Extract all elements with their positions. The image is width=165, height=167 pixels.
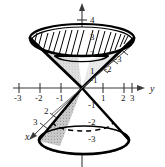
z-tick-label-3: 3 (90, 32, 95, 42)
y-tick-label-m3: -3 (14, 93, 22, 103)
cone-figure: 4 3 2 1 -1 -2 -3 -3 -2 -1 1 2 3 y 2 3 x … (0, 0, 165, 167)
y-tick-label-3: 3 (130, 93, 135, 103)
y-tick-label-1: 1 (101, 93, 106, 103)
x-axis-label: x (24, 131, 30, 142)
y-tick-label-m1: -1 (56, 93, 64, 103)
y-tick-label-m2: -2 (35, 93, 43, 103)
z-tick-label-m1: -1 (88, 100, 96, 110)
z-tick-label-m3: -3 (88, 134, 96, 144)
x-tick-label-3: 3 (33, 117, 38, 127)
z-tick-label-2: 2 (90, 49, 95, 59)
z-tick-label-m2: -2 (88, 117, 96, 127)
z-tick-label-4: 4 (90, 15, 95, 25)
lower-cone-body-shade (39, 88, 129, 155)
y-axis-label: y (149, 83, 155, 94)
y-tick-label-2: 2 (121, 93, 126, 103)
y-axis-arrowhead (137, 85, 145, 91)
x-tick-label-m2: -2 (104, 64, 112, 74)
z-axis-arrowhead (79, 3, 85, 11)
x-tick-label-m3: -3 (114, 54, 122, 64)
x-tick-label-m1: -1 (90, 75, 98, 85)
x-tick-label-2: 2 (44, 106, 49, 116)
lower-cone (39, 88, 129, 155)
